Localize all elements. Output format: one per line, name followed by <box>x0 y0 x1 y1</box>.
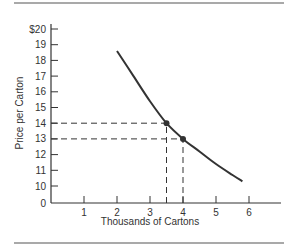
data-point <box>164 120 170 126</box>
y-tick-label: 19 <box>35 39 47 50</box>
x-tick-label: 6 <box>246 207 252 218</box>
data-point <box>180 136 186 142</box>
y-tick-label: 15 <box>35 102 47 113</box>
y-tick-label: 10 <box>35 181 47 192</box>
y-tick-label: 12 <box>35 149 47 160</box>
x-axis-label: Thousands of Cartons <box>101 216 199 227</box>
y-tick-label: 0 <box>40 198 46 209</box>
y-tick-label: $20 <box>29 24 46 35</box>
y-tick-label: 14 <box>35 118 47 129</box>
y-tick-label: 11 <box>36 165 47 176</box>
y-axis-label: Price per Carton <box>14 77 25 150</box>
y-tick-label: 16 <box>35 86 47 97</box>
y-axis: $20191817161514131211100 <box>29 24 58 209</box>
x-tick-label: 5 <box>213 207 219 218</box>
y-tick-label: 17 <box>35 71 47 82</box>
y-tick-label: 18 <box>35 55 47 66</box>
demand-curve <box>117 51 242 181</box>
demand-chart: $20191817161514131211100 123456 Price pe… <box>0 0 295 245</box>
y-tick-label: 13 <box>35 133 47 144</box>
x-tick-label: 1 <box>81 207 87 218</box>
reference-lines <box>51 123 183 203</box>
